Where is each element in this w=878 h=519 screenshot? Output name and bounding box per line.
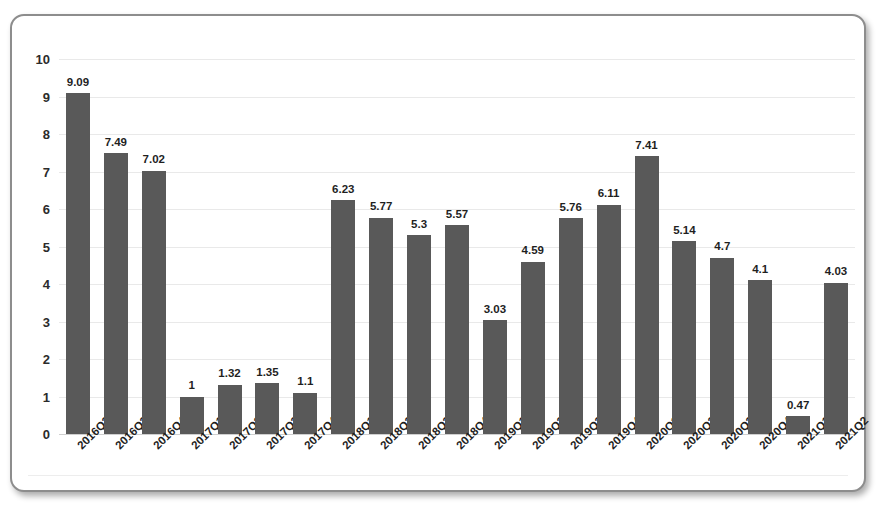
bar-value-label: 7.41 xyxy=(635,140,657,152)
bar-slot: 5.572018Q4 xyxy=(438,59,476,434)
y-axis-tick-label: 9 xyxy=(43,90,50,103)
bar[interactable] xyxy=(180,397,204,435)
bar-value-label: 5.76 xyxy=(559,202,581,214)
bar[interactable] xyxy=(255,383,279,434)
screenshot-root: 012345678910 9.092016Q27.492016Q37.02201… xyxy=(0,0,878,519)
bar[interactable] xyxy=(597,205,621,434)
bar[interactable] xyxy=(559,218,583,434)
bar[interactable] xyxy=(483,320,507,434)
bar[interactable] xyxy=(748,280,772,434)
y-axis-tick-label: 10 xyxy=(36,53,50,66)
bar-value-label: 5.3 xyxy=(411,219,427,231)
bar[interactable] xyxy=(824,283,848,434)
bar-value-label: 5.57 xyxy=(446,209,468,221)
bar-value-label: 1.32 xyxy=(218,368,240,380)
bar[interactable] xyxy=(635,156,659,434)
y-axis-tick-label: 1 xyxy=(43,390,50,403)
bar-slot: 7.412020Q1 xyxy=(628,59,666,434)
bar-value-label: 1 xyxy=(188,380,194,392)
bar[interactable] xyxy=(369,218,393,434)
bar-slot: 5.762019Q3 xyxy=(552,59,590,434)
y-axis-tick-label: 4 xyxy=(43,278,50,291)
bar[interactable] xyxy=(331,200,355,434)
bar-slot: 4.592019Q2 xyxy=(514,59,552,434)
y-axis-tick-label: 8 xyxy=(43,128,50,141)
bar-value-label: 5.77 xyxy=(370,201,392,213)
bar-value-label: 3.03 xyxy=(484,304,506,316)
bar-slot: 1.352017Q3 xyxy=(249,59,287,434)
bar-slot: 7.022016Q4 xyxy=(135,59,173,434)
bar-value-label: 7.02 xyxy=(143,154,165,166)
y-axis-tick-label: 3 xyxy=(43,315,50,328)
bar-slot: 5.32018Q3 xyxy=(400,59,438,434)
bar-value-label: 6.11 xyxy=(598,188,620,200)
bar-slot: 7.492016Q3 xyxy=(97,59,135,434)
bar-value-label: 4.59 xyxy=(522,245,544,257)
bar-value-label: 4.03 xyxy=(825,266,847,278)
bar-value-label: 7.49 xyxy=(105,137,127,149)
chart-frame: 012345678910 9.092016Q27.492016Q37.02201… xyxy=(10,14,866,492)
y-axis-tick-label: 0 xyxy=(43,428,50,441)
y-axis-tick-label: 7 xyxy=(43,165,50,178)
bar[interactable] xyxy=(521,262,545,434)
bar-chart-plot-area: 012345678910 9.092016Q27.492016Q37.02201… xyxy=(59,59,855,434)
bar-slot: 12017Q1 xyxy=(173,59,211,434)
bar-slot: 4.72020Q3 xyxy=(703,59,741,434)
bar-slot: 0.472021Q1 xyxy=(779,59,817,434)
bar-value-label: 0.47 xyxy=(787,400,809,412)
bar[interactable] xyxy=(66,93,90,434)
bar-slot: 4.032021Q2 xyxy=(817,59,855,434)
bar[interactable] xyxy=(445,225,469,434)
bar[interactable] xyxy=(710,258,734,434)
bar-slot: 5.142020Q2 xyxy=(665,59,703,434)
bar-value-label: 4.1 xyxy=(752,264,768,276)
bar[interactable] xyxy=(142,171,166,434)
y-axis-tick-label: 6 xyxy=(43,203,50,216)
bar-value-label: 4.7 xyxy=(714,241,730,253)
x-axis-rule xyxy=(28,475,848,476)
bar-slot: 6.232018Q1 xyxy=(324,59,362,434)
bar-value-label: 1.1 xyxy=(297,376,313,388)
bar-slot: 6.112019Q4 xyxy=(590,59,628,434)
bar-slot: 1.322017Q2 xyxy=(211,59,249,434)
bar-slot: 1.12017Q4 xyxy=(286,59,324,434)
y-axis-tick-label: 2 xyxy=(43,353,50,366)
bar[interactable] xyxy=(672,241,696,434)
bar-value-label: 9.09 xyxy=(67,77,89,89)
bar[interactable] xyxy=(293,393,317,434)
bar-value-label: 1.35 xyxy=(256,367,278,379)
bar-slot: 5.772018Q2 xyxy=(362,59,400,434)
bar-slot: 4.12020Q4 xyxy=(741,59,779,434)
bar-value-label: 5.14 xyxy=(673,225,695,237)
y-axis-tick-label: 5 xyxy=(43,240,50,253)
bar[interactable] xyxy=(218,385,242,435)
bar-value-label: 6.23 xyxy=(332,184,354,196)
bar[interactable] xyxy=(407,235,431,434)
bar-slot: 9.092016Q2 xyxy=(59,59,97,434)
bar-slot: 3.032019Q1 xyxy=(476,59,514,434)
bar[interactable] xyxy=(104,153,128,434)
